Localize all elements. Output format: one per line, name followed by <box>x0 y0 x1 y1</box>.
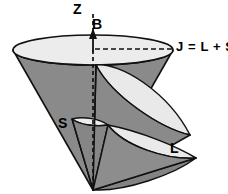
l-vector-label: L <box>170 141 179 155</box>
b-field-label: B <box>92 17 102 31</box>
angular-momentum-cone-diagram <box>0 0 228 194</box>
j-equation-label: J = L + S <box>176 40 228 53</box>
s-vector-label: S <box>58 116 68 130</box>
z-axis-label: Z <box>73 2 82 16</box>
